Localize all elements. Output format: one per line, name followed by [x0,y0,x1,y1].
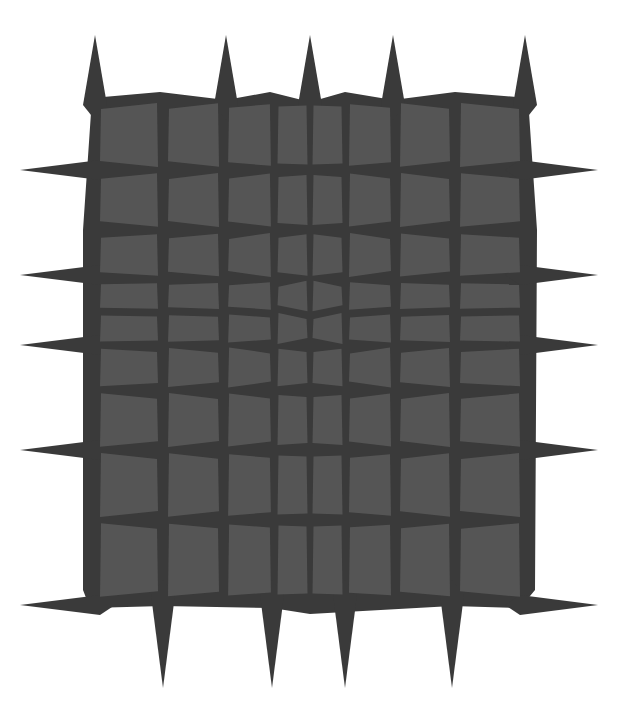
tile [349,393,391,446]
tile [400,453,450,517]
tile [313,395,343,445]
tile [168,173,219,227]
tile [278,105,308,164]
tile [460,453,520,517]
tile [228,104,271,166]
tile [168,234,219,277]
bottom-spike-2 [333,580,357,688]
tile [100,349,158,387]
right-spike-0 [505,160,598,180]
tile [100,523,158,597]
tile [168,315,219,342]
tile [278,349,308,387]
tile [100,453,158,517]
tile [349,525,391,596]
tile [100,103,158,167]
tile [349,104,391,166]
tile [168,524,219,597]
tessellation-pattern [0,0,620,715]
tile [349,347,391,387]
tile [400,315,450,342]
tile [400,173,450,227]
tile [228,314,271,342]
tile [400,393,450,447]
tile [168,283,219,309]
tile [400,348,450,387]
tile [228,525,271,596]
tile [278,395,308,445]
tile [313,349,343,387]
tile [100,234,158,275]
tile [228,282,271,309]
tile [100,173,158,226]
tile [460,315,520,341]
tile [460,103,520,167]
tile [313,105,343,164]
tile [460,173,520,226]
tile [349,454,391,516]
tile [460,393,520,446]
tile [278,455,308,514]
tile [228,393,271,446]
tile [313,526,343,595]
tile [400,103,450,166]
tile [168,103,219,167]
tile [168,453,219,517]
tile [460,283,520,308]
left-spike-4 [20,595,115,615]
tile [228,347,271,387]
tile [100,393,158,446]
tile [168,348,219,387]
bottom-spike-0 [151,580,175,688]
tile [278,234,308,275]
tile [460,349,520,387]
left-spike-0 [20,160,115,180]
tile [313,175,343,225]
tile [228,173,271,226]
tile [278,175,308,225]
tile [400,524,450,597]
tile [100,283,158,308]
tile [349,174,391,227]
tile [168,393,219,447]
tile [228,454,271,516]
tile [100,315,158,341]
tile [313,234,343,275]
bottom-spike-1 [260,580,284,688]
top-spike-4 [513,35,537,120]
tile [349,282,391,309]
tile [400,234,450,277]
right-spike-4 [505,595,598,615]
tile [349,314,391,342]
tile [278,526,308,595]
bottom-spike-3 [440,580,464,688]
tile [460,234,520,275]
tile [228,233,271,277]
tile [400,283,450,309]
tile [349,233,391,277]
tile [460,523,520,597]
tile [313,455,343,514]
top-spike-0 [83,35,107,120]
